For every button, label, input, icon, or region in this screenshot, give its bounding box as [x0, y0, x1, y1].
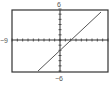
data-line: [38, 12, 101, 71]
y-max-label: 6: [57, 1, 61, 8]
x-min-label: −9: [0, 37, 8, 44]
y-min-label: −6: [55, 75, 63, 82]
